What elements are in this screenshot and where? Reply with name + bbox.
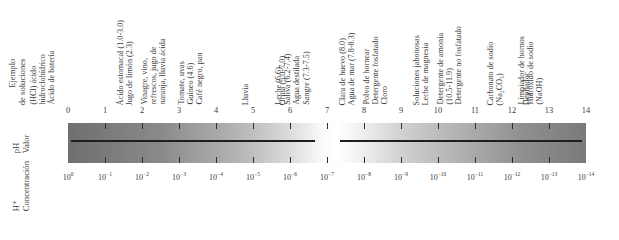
concentration-value: 10−2 (135, 171, 149, 182)
example-label: Guineo (4.6) (186, 53, 195, 105)
concentration-value: 10−12 (504, 171, 521, 182)
ph-value: 13 (545, 106, 553, 115)
example-label: Limpiador de hornos (517, 36, 526, 105)
example-label: Leche de magnesia (422, 35, 431, 105)
concentration-exponent: −10 (438, 171, 447, 177)
ph-tick (327, 157, 328, 163)
concentration-exponent: −9 (402, 171, 408, 177)
concentration-exponent: −1 (106, 171, 112, 177)
concentration-base: 10 (430, 173, 438, 182)
ph-tick (216, 123, 217, 129)
ph-tick (549, 123, 550, 129)
concentration-value: 10−3 (172, 171, 186, 182)
example-label: Café negro, pan (195, 53, 204, 105)
example-label: (HCl) ácido (29, 51, 38, 105)
example-label: Hidróxido de sodio (526, 36, 535, 105)
example-label: (Na₂CO₃) (496, 41, 505, 105)
ph-tick (549, 157, 550, 163)
concentration-base: 10 (578, 173, 586, 182)
concentration-exponent: −3 (180, 171, 186, 177)
ph-tick (512, 157, 513, 163)
ph-value: 2 (140, 106, 144, 115)
concentration-exponent: −11 (475, 171, 483, 177)
concentration-base: 10 (246, 173, 254, 182)
ph-value: 8 (362, 106, 366, 115)
axis-title-line: Concentración (21, 161, 31, 211)
ph-tick (290, 123, 291, 129)
concentration-base: 10 (504, 173, 512, 182)
example-label: hidroclohídrico (38, 51, 47, 105)
ph-tick (216, 157, 217, 163)
concentration-exponent: −2 (143, 171, 149, 177)
ph-value: 4 (214, 106, 218, 115)
ph-tick (179, 123, 180, 129)
concentration-value: 10−14 (578, 171, 595, 182)
ph-value: 5 (251, 106, 255, 115)
concentration-exponent: −13 (549, 171, 558, 177)
concentration-value: 100 (63, 171, 74, 182)
ph-tick (179, 157, 180, 163)
ph-tick (401, 157, 402, 163)
concentration-exponent: −8 (365, 171, 371, 177)
concentration-base: 10 (98, 173, 106, 182)
concentration-base: 10 (135, 173, 143, 182)
concentration-exponent: −4 (217, 171, 223, 177)
example-label: refrescos, jugo de (149, 39, 158, 105)
example-label: Jugo de limón (2.3) (126, 20, 135, 106)
ph-tick (512, 123, 513, 129)
concentration-value: 10−10 (430, 171, 447, 182)
concentration-value: 10−9 (394, 171, 408, 182)
ph-tick (290, 157, 291, 163)
example-label: Detergente de amonia (436, 26, 445, 105)
example-label: Polvo de hornear (362, 37, 371, 105)
ph-tick (105, 123, 106, 129)
ph-tick (401, 123, 402, 129)
ph-value: 11 (471, 106, 479, 115)
example-label: Detergente no fosfatado (454, 26, 463, 105)
ph-tick (438, 157, 439, 163)
ph-value: 1 (103, 106, 107, 115)
concentration-value: 10−6 (283, 171, 297, 182)
example-label: Saliva (6.2-7.4) (283, 52, 292, 105)
example-label: (10.5-11.9) (445, 26, 454, 105)
acid-line (71, 140, 315, 142)
concentration-exponent: −12 (512, 171, 521, 177)
example-label: Cloro (380, 37, 389, 105)
concentration-exponent: −14 (586, 171, 595, 177)
concentration-base: 10 (172, 173, 180, 182)
example-label: naranja, lluvia ácida (158, 39, 167, 105)
concentration-value: 10−7 (320, 171, 334, 182)
concentration-value: 10−13 (541, 171, 558, 182)
base-line (340, 140, 582, 142)
ph-value: 6 (288, 106, 292, 115)
example-label: Detergente fosfatado (371, 37, 380, 105)
ph-tick (364, 123, 365, 129)
example-label: Lluvia (241, 84, 250, 105)
example-label: (NaOH) (535, 36, 544, 105)
concentration-exponent: −7 (328, 171, 334, 177)
concentration-base: 10 (283, 173, 291, 182)
ph-tick (105, 157, 106, 163)
ph-tick (253, 157, 254, 163)
ph-tick (142, 123, 143, 129)
concentration-base: 10 (63, 173, 71, 182)
concentration-base: 10 (320, 173, 328, 182)
concentration-value: 10−4 (209, 171, 223, 182)
concentration-exponent: −5 (254, 171, 260, 177)
ph-tick (253, 123, 254, 129)
ph-tick (327, 123, 328, 129)
ph-tick (475, 157, 476, 163)
ph-tick (475, 123, 476, 129)
concentration-base: 10 (209, 173, 217, 182)
example-label: Tomate, uvas (177, 53, 186, 105)
ph-value: 7 (325, 106, 329, 115)
concentration-value: 10−8 (357, 171, 371, 182)
ph-value: 3 (177, 106, 181, 115)
ph-value: 12 (508, 106, 516, 115)
concentration-base: 10 (357, 173, 365, 182)
concentration-value: 10−1 (98, 171, 112, 182)
concentration-base: 10 (467, 173, 475, 182)
concentration-exponent: 0 (71, 171, 74, 177)
ph-tick (438, 123, 439, 129)
example-label: Vinagre, vino, (140, 39, 149, 105)
